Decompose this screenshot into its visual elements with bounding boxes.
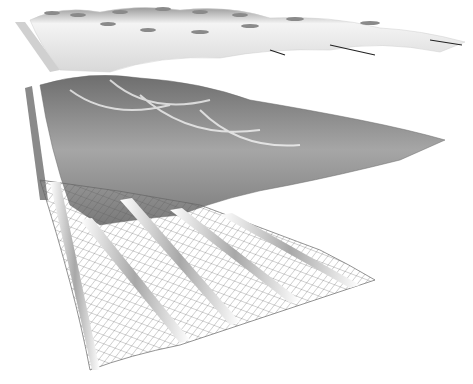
bottom-layer (40, 180, 375, 370)
layer-diagram (0, 0, 473, 384)
top-layer (15, 7, 465, 72)
